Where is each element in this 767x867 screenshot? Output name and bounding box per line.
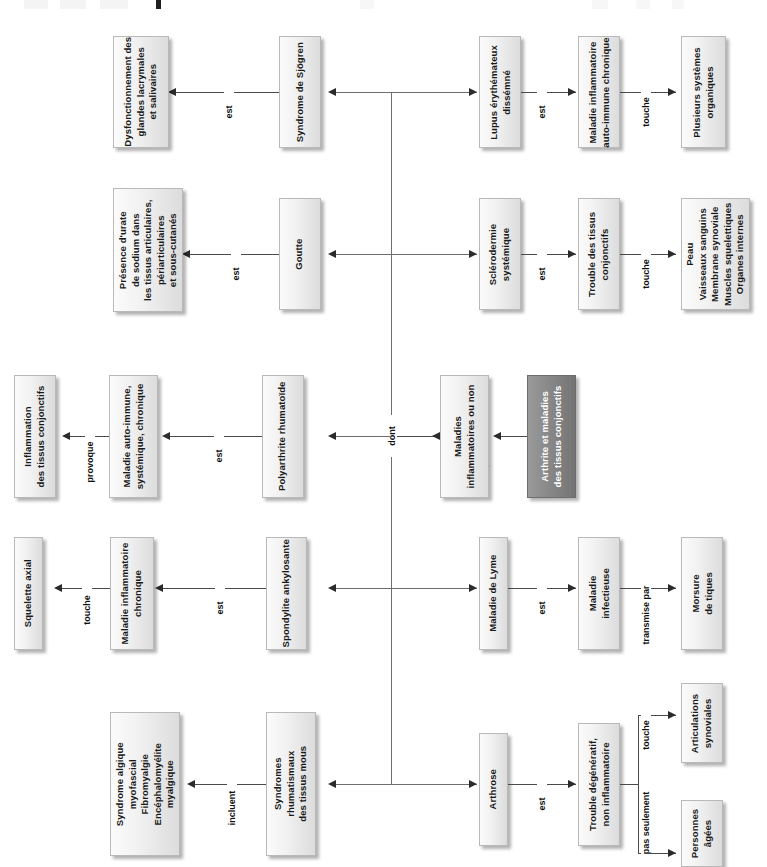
trunk-spur-row2 (336, 254, 391, 255)
edge-label-arthrose-est: est (537, 783, 547, 825)
arrowhead-sclerodermie (469, 250, 477, 258)
arrowhead-lyme (469, 584, 477, 592)
node-label: Lupus érythémateuxdissémné (488, 45, 513, 140)
node-label: Présence d'uratede sodium dansles tissus… (117, 199, 180, 301)
node-trouble-degeneratif[interactable]: Trouble dégénératif,non inflammatoire (578, 723, 620, 846)
arrowhead-provoque (62, 432, 70, 440)
node-goutte[interactable]: Goutte (279, 198, 321, 310)
top-clip-ghost-3 (100, 0, 128, 9)
arrowhead-goutte-outcome (182, 250, 190, 258)
node-syndrome-de-sjogren[interactable]: Syndrome de Sjögren (279, 36, 321, 148)
edge-label-goutte-est: est (231, 253, 241, 295)
arrowhead-incluent (187, 780, 195, 788)
arrowhead-sjogren-outcome (168, 88, 176, 96)
edge-label-lyme-est: est (537, 587, 547, 629)
node-maladie-auto-immune-systemique[interactable]: Maladie auto-immune,systémique, chroniqu… (109, 375, 158, 498)
node-dysfonctionnement-glandes[interactable]: Dysfonctionnement desglandes lacrymalese… (113, 36, 169, 148)
node-arthrose[interactable]: Arthrose (479, 733, 508, 846)
hub-node-label: Maladiesinflammatoires ou non (452, 385, 477, 489)
node-maladie-de-lyme[interactable]: Maladie de Lyme (479, 537, 508, 650)
hub-node-maladies[interactable]: Maladiesinflammatoires ou non (440, 375, 489, 498)
node-label: Maladie de Lyme (487, 555, 500, 632)
arrowhead-spondylite (328, 584, 336, 592)
arrowhead-spondylite-est (155, 584, 163, 592)
arrowhead-lupus-touche (668, 88, 676, 96)
arrowhead-squelette-touche (54, 584, 62, 592)
node-label: Plusieurs systèmesorganiques (691, 47, 716, 138)
arrowhead-sjogren (328, 88, 336, 96)
node-label: Spondylite ankylosante (280, 539, 293, 647)
node-label: PeauVaisseaux sanguinsMembrane synoviale… (684, 202, 747, 305)
top-clip-ghost-6 (636, 0, 650, 9)
arrowhead-root-to-hub (493, 432, 501, 440)
node-trouble-tissus-conjonctifs[interactable]: Trouble des tissusconjonctifs (578, 198, 620, 310)
node-label: Arthrose (487, 769, 500, 809)
node-maladie-inflammatoire-auto-immune[interactable]: Maladie inflammatoireauto-immune chroniq… (578, 36, 620, 148)
node-label: Maladie auto-immune,systémique, chroniqu… (121, 384, 146, 490)
edge-label-trouble-touche: touche (641, 248, 651, 300)
top-clip-mark (156, 0, 161, 9)
node-label: Syndrome de Sjögren (294, 42, 307, 142)
node-articulations-synoviales[interactable]: Articulationssynoviales (681, 683, 723, 763)
node-lupus-erythemateux[interactable]: Lupus érythémateuxdissémné (479, 36, 521, 148)
node-label: Maladie inflammatoirechronique (120, 543, 145, 645)
arrowhead-arthrose (469, 780, 477, 788)
trunk-spur-row2-right (391, 254, 477, 255)
edge-label-lupus-est: est (537, 91, 547, 133)
node-label: Articulationssynoviales (690, 693, 715, 752)
node-syndromes-rhumatismaux-tissus-mous[interactable]: Syndromesrhumatismauxdes tissus mous (266, 712, 316, 856)
node-morsure-de-tiques[interactable]: Morsurede tiques (681, 537, 723, 650)
edge-label-pas-seulement: pas seulement (641, 782, 651, 864)
trunk-spur-row1 (336, 92, 391, 93)
node-label: Inflammationdes tissus conjonctifs (23, 386, 48, 488)
node-presence-urate-sodium[interactable]: Présence d'uratede sodium dansles tissus… (113, 188, 183, 312)
node-label: Syndrome algiquemyofascialFibromyalgieEn… (114, 742, 177, 826)
edge-label-sclerodermie-est: est (537, 253, 547, 295)
node-label: Dysfonctionnement desglandes lacrymalese… (122, 37, 160, 147)
node-label: Squelette axial (22, 559, 35, 627)
node-label: Morsurede tiques (690, 572, 715, 615)
edge-label-incluent: incluent (227, 777, 237, 839)
edge-label-sjogren-est: est (224, 91, 234, 133)
trunk-spur-row4-right (391, 588, 477, 589)
edge-arthrose-fork-stem (620, 784, 638, 785)
root-node-label: Arthrite et maladiesdes tissus conjoncti… (539, 386, 564, 488)
edge-arthrose-fork-bus (638, 715, 639, 853)
node-peau-vaisseaux-organes[interactable]: PeauVaisseaux sanguinsMembrane synoviale… (681, 198, 750, 310)
edge-label-provoque: provoque (85, 431, 95, 493)
node-inflammation-tissus-conjonctifs[interactable]: Inflammationdes tissus conjonctifs (14, 375, 56, 498)
node-maladie-inflammatoire-chronique[interactable]: Maladie inflammatoirechronique (110, 537, 154, 650)
node-label: Trouble dégénératif,non inflammatoire (587, 738, 612, 831)
node-squelette-axial[interactable]: Squelette axial (14, 537, 43, 650)
trunk-spur-row3 (336, 436, 391, 437)
node-plusieurs-systemes-organiques[interactable]: Plusieurs systèmesorganiques (681, 36, 726, 148)
arrowhead-lupus-est (568, 88, 576, 96)
arrowhead-goutte (328, 250, 336, 258)
trunk-spur-row5 (336, 784, 391, 785)
trunk-spur-row4 (336, 588, 391, 589)
top-clip-ghost-7 (672, 0, 684, 9)
node-personnes-agees[interactable]: Personnesâgées (681, 800, 723, 867)
node-spondylite-ankylosante[interactable]: Spondylite ankylosante (266, 537, 307, 650)
node-label: Goutte (294, 238, 307, 269)
node-sclerodermie-systemique[interactable]: Sclérodermiesystémique (479, 198, 521, 310)
trunk-spur-row1-right (391, 92, 477, 93)
arrowhead-syndromes-mous (328, 780, 336, 788)
root-node-arthrite[interactable]: Arthrite et maladiesdes tissus conjoncti… (527, 375, 576, 498)
node-syndrome-algique-fibromyalgie[interactable]: Syndrome algiquemyofascialFibromyalgieEn… (110, 712, 180, 856)
trunk-spur-row5-right (391, 784, 477, 785)
edge-label-spondylite-est: est (215, 587, 225, 629)
arrowhead-trouble-touche (668, 250, 676, 258)
node-label: Syndromesrhumatismauxdes tissus mous (272, 746, 310, 822)
top-clip-ghost-5 (592, 0, 608, 9)
edge-label-touche-articulations: touche (641, 709, 651, 761)
node-maladie-infectieuse[interactable]: Maladieinfectieuse (578, 537, 620, 650)
arrowhead-pas-seulement (668, 849, 676, 857)
edge-label-squelette-touche: touche (82, 584, 92, 636)
arrowhead-lyme-est (568, 584, 576, 592)
node-polyarthrite-rhumatoide[interactable]: Polyarthrite rhumatoïde (262, 375, 304, 498)
node-label: Trouble des tissusconjonctifs (587, 211, 612, 296)
arrowhead-sclerodermie-est (568, 250, 576, 258)
arrowhead-hub-inbound (432, 432, 440, 440)
node-label: Sclérodermiesystémique (488, 223, 513, 284)
